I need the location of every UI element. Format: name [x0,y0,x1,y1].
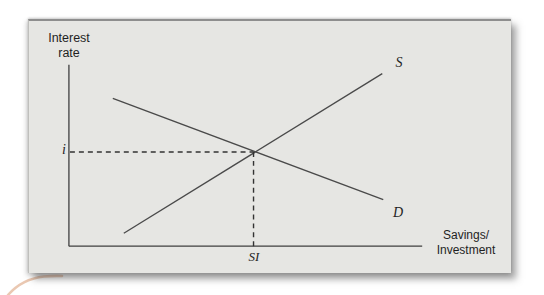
y-axis-title-line2: rate [34,46,104,61]
supply-curve-label: S [391,55,407,71]
y-axis-title-line1: Interest [34,31,104,46]
x-axis-title-line1: Savings/ [433,228,499,243]
y-axis-title: Interest rate [34,31,104,61]
equilibrium-quantity-label: SI [241,249,267,265]
demand-curve-line [113,98,383,199]
equilibrium-rate-label: i [57,142,71,158]
demand-curve-label: D [390,205,406,221]
x-axis-title: Savings/ Investment [433,228,499,258]
figure-panel: Interest rate i S D SI Savings/ Investme… [28,19,511,273]
figure-canvas: Interest rate i S D SI Savings/ Investme… [0,0,544,295]
x-axis-title-line2: Investment [433,243,499,258]
